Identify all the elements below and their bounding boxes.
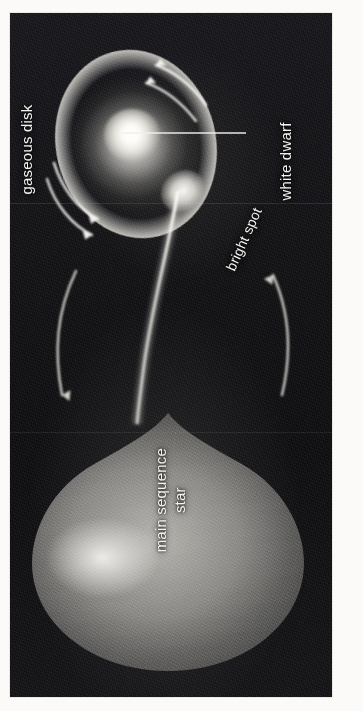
gaseous-disk [48,43,228,243]
photograph-plate: gaseous disk white dwarf bright spot mai… [10,13,332,697]
orbital-arrow-right [264,275,288,395]
label-main-sequence-line1: main sequence [151,448,170,552]
label-main-sequence-star: main sequence star [151,448,189,552]
label-bright-spot: bright spot [223,205,265,273]
orbital-arrow-left [58,271,76,401]
white-dwarf [104,109,160,161]
label-white-dwarf: white dwarf [277,122,294,200]
label-main-sequence-line2: star [170,448,189,552]
figure-page: gaseous disk white dwarf bright spot mai… [0,0,363,711]
label-gaseous-disk: gaseous disk [18,105,35,195]
